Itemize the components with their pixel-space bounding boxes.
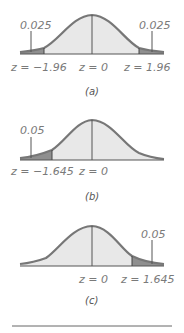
- panel-a-right-tail-label: 0.025: [139, 19, 171, 32]
- normal-curves-figure: 0.025 0.025 z = −1.96 z = 0 z = 1.96 (a)…: [0, 0, 184, 333]
- panel-b-z-left: z = −1.645: [10, 165, 74, 178]
- panel-b-left-tail-label: 0.05: [20, 124, 45, 137]
- panel-c-z-center: z = 0: [78, 273, 108, 286]
- panel-b-z-center: z = 0: [78, 165, 108, 178]
- panel-c-right-tail-label: 0.05: [141, 228, 166, 241]
- panel-a-left-tail-label: 0.025: [20, 19, 52, 32]
- panel-c-z-right: z = 1.645: [120, 273, 174, 286]
- panel-a-caption: (a): [85, 86, 99, 97]
- panel-a-z-right: z = 1.96: [123, 61, 170, 74]
- panel-a-z-left: z = −1.96: [10, 61, 67, 74]
- panel-a: 0.025 0.025 z = −1.96 z = 0 z = 1.96 (a): [10, 15, 171, 97]
- panel-b: 0.05 z = −1.645 z = 0 (b): [10, 120, 164, 202]
- panel-c-caption: (c): [85, 295, 98, 306]
- panel-c: 0.05 z = 0 z = 1.645 (c): [20, 226, 174, 306]
- panel-a-z-center: z = 0: [78, 61, 108, 74]
- panel-b-caption: (b): [85, 191, 99, 202]
